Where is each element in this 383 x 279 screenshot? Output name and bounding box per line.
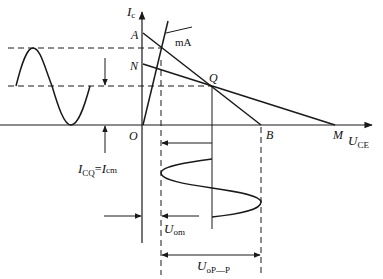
point-q-label: Q bbox=[209, 71, 218, 85]
icq-icm-label: ICQ=Icm bbox=[77, 161, 117, 178]
ma-leader-line bbox=[166, 27, 192, 33]
uom-label: Uom bbox=[164, 221, 185, 237]
origin-label: O bbox=[129, 129, 138, 143]
point-n-label: N bbox=[129, 59, 139, 73]
point-a-label: A bbox=[130, 28, 139, 42]
ac-load-line-nm bbox=[143, 64, 335, 125]
y-axis-label: Ic bbox=[126, 4, 135, 20]
ma-label: mA bbox=[175, 36, 192, 48]
output-voltage-sine bbox=[161, 159, 261, 217]
uopp-label: UoP—P bbox=[197, 258, 230, 275]
point-b-label: B bbox=[266, 128, 274, 142]
load-line-diagram: Ic UCE O A N Q B M mA ICQ=Icm Uom UoP—P bbox=[0, 0, 383, 279]
x-axis-label: UCE bbox=[348, 133, 369, 150]
point-m-label: M bbox=[332, 128, 344, 142]
